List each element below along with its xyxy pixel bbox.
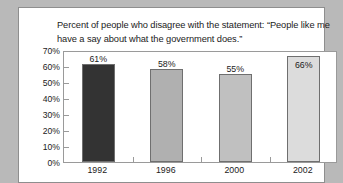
bar-value-label: 58%	[144, 59, 190, 69]
x-axis-tick	[201, 157, 202, 162]
y-tick-label: 50%	[32, 78, 60, 88]
y-axis-tick	[64, 67, 69, 68]
x-axis-tick	[270, 157, 271, 162]
bar-value-label: 61%	[75, 54, 121, 64]
y-axis-tick	[64, 115, 69, 116]
bar	[287, 56, 320, 162]
x-tick-label: 1996	[138, 165, 194, 175]
y-tick-label: 70%	[32, 46, 60, 56]
chart-card: Percent of people who disagree with the …	[18, 7, 325, 183]
chart-figure: Percent of people who disagree with the …	[0, 0, 343, 183]
y-axis-tick	[64, 99, 69, 100]
x-axis-tick	[133, 157, 134, 162]
y-tick-label: 20%	[32, 126, 60, 136]
bar	[219, 74, 252, 162]
y-axis-tick	[64, 147, 69, 148]
x-axis: 1992199620002002	[63, 165, 337, 179]
x-tick-label: 1992	[69, 165, 125, 175]
y-tick-label: 0%	[32, 158, 60, 168]
y-tick-label: 40%	[32, 94, 60, 104]
bar-value-label: 66%	[281, 60, 327, 70]
bar	[82, 64, 115, 162]
bar-value-label: 55%	[212, 64, 258, 74]
y-tick-label: 60%	[32, 62, 60, 72]
x-tick-label: 2002	[275, 165, 331, 175]
y-axis-tick	[64, 83, 69, 84]
plot-area: 61%58%55%66%	[63, 51, 337, 163]
y-axis-tick	[64, 131, 69, 132]
chart-title: Percent of people who disagree with the …	[57, 19, 337, 46]
y-tick-label: 10%	[32, 142, 60, 152]
y-tick-label: 30%	[32, 110, 60, 120]
bar	[150, 69, 183, 162]
y-axis: 70%60%50%40%30%20%10%0%	[27, 51, 60, 162]
x-tick-label: 2000	[206, 165, 262, 175]
